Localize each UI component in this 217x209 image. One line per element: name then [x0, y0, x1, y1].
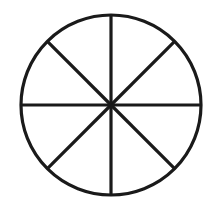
- fraction-circle-diagram: [0, 0, 217, 209]
- sector-hit-regions: [21, 15, 201, 195]
